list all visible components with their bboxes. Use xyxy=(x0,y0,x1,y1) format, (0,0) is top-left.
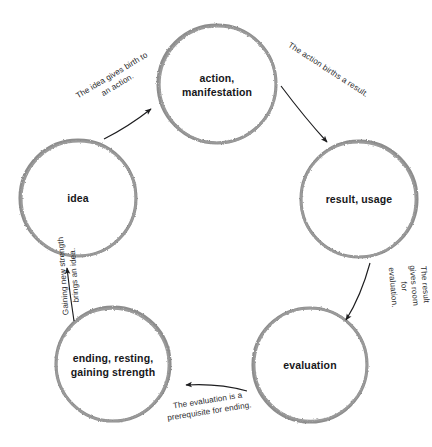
arrow-ending-to-idea xyxy=(67,268,74,321)
node-circle-evaluation xyxy=(253,308,367,422)
node-circle-ending xyxy=(56,307,170,421)
arrow-action-to-result xyxy=(281,86,327,142)
cycle-diagram: action, manifestation result, usage eval… xyxy=(0,0,432,447)
node-circle-result xyxy=(301,141,417,257)
node-circle-idea xyxy=(20,140,136,256)
arrow-result-to-evaluation xyxy=(346,263,370,320)
node-circle-action xyxy=(158,25,276,143)
arrow-idea-to-action xyxy=(104,109,151,139)
arrow-evaluation-to-ending xyxy=(186,385,247,391)
diagram-canvas xyxy=(0,0,432,447)
